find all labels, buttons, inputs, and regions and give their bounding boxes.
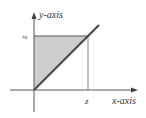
y-axis-label: y-axis [38, 9, 63, 20]
x-axis-arrow-icon [131, 88, 138, 93]
x-tick-label: z [84, 96, 89, 106]
y-axis-arrow-icon [32, 12, 37, 19]
x-axis-label: x-axis [111, 95, 136, 106]
diagram-canvas: y-axis x-axis z z [0, 0, 146, 118]
y-tick-label: z [19, 35, 29, 40]
